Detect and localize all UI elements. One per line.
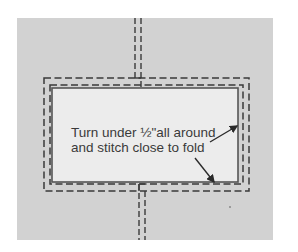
instruction-line-1: Turn under ½"all around <box>71 125 216 140</box>
instruction-line-2: and stitch close to fold <box>71 140 205 155</box>
vertical-seam-bottom <box>139 184 145 240</box>
